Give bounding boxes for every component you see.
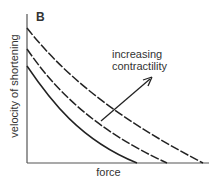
x-axis-label: force xyxy=(0,166,217,178)
annotation: increasing contractility xyxy=(112,48,167,72)
panel-label: B xyxy=(36,10,45,24)
annotation-line2: contractility xyxy=(112,60,167,72)
force-velocity-chart xyxy=(0,0,217,192)
contractility-arrow xyxy=(101,79,150,121)
y-axis-label: velocity of shortening xyxy=(8,31,20,141)
annotation-line1: increasing xyxy=(112,48,167,60)
